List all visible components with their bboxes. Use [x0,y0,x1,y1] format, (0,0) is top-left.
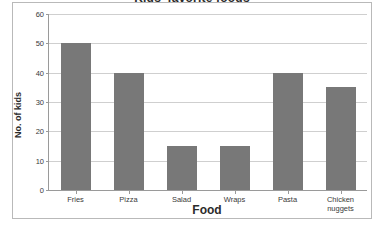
bar-series: FriesPizzaSaladWrapsPastaChicken nuggets [49,14,367,190]
y-tick-mark [46,190,49,191]
bar[interactable] [326,87,356,190]
x-tick-mark [76,190,77,194]
plot-area: 0102030405060 FriesPizzaSaladWrapsPastaC… [48,14,367,191]
y-tick-label: 20 [36,127,44,136]
y-tick-label: 50 [36,39,44,48]
y-tick-label: 60 [36,10,44,19]
y-tick-label: 10 [36,156,44,165]
bar[interactable] [167,146,197,190]
bar-group: Chicken nuggets [314,14,367,190]
bar[interactable] [273,73,303,190]
x-tick-mark [182,190,183,194]
chart-figure: Kids' favorite foods No. of kids 0102030… [0,0,384,227]
x-tick-mark [235,190,236,194]
chart-title: Kids' favorite foods [12,0,372,5]
x-tick-mark [129,190,130,194]
y-tick-label: 30 [36,98,44,107]
bar-group: Wraps [208,14,261,190]
bar-group: Fries [49,14,102,190]
y-tick-label: 0 [40,186,44,195]
bar-group: Pasta [261,14,314,190]
y-axis-title: No. of kids [2,60,16,170]
x-tick-mark [288,190,289,194]
x-axis-title: Food [48,203,366,217]
x-tick-mark [341,190,342,194]
bar[interactable] [61,43,91,190]
y-tick-label: 40 [36,68,44,77]
bar-group: Pizza [102,14,155,190]
y-axis-title-text: No. of kids [13,92,23,138]
bar-group: Salad [155,14,208,190]
bar[interactable] [220,146,250,190]
bar[interactable] [114,73,144,190]
